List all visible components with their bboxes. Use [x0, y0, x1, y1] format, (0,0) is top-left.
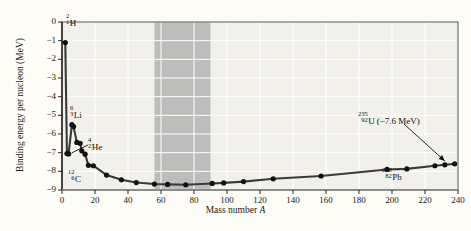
x-tick-label: 160	[311, 195, 341, 205]
annotation-h2: 21H	[66, 14, 76, 28]
x-tick-label: 220	[410, 195, 440, 205]
data-point	[183, 182, 188, 187]
data-point	[104, 172, 109, 177]
annotation-pb208-numbers: 20882	[382, 167, 392, 180]
annotation-c12-z: 6	[68, 175, 75, 182]
y-tick-label: −5	[20, 109, 56, 119]
data-point	[66, 151, 71, 156]
data-point	[152, 181, 157, 186]
annotation-u235-value: (−7.6 MeV)	[377, 116, 420, 126]
annotation-li6-numbers: 63	[70, 105, 73, 118]
y-tick-label: −2	[20, 53, 56, 63]
annotation-he4-z: 2	[88, 143, 91, 150]
data-point	[134, 180, 139, 185]
y-tick-label: −8	[20, 165, 56, 175]
annotation-u235: 23592U(−7.6 MeV)	[358, 112, 420, 126]
x-tick-label: 40	[113, 195, 143, 205]
x-tick-label: 0	[47, 195, 77, 205]
x-tick-label: 100	[212, 195, 242, 205]
annotation-pb208: 20882Pb	[382, 168, 402, 182]
stable-nuclei-band	[154, 22, 210, 190]
annotation-li6-element: Li	[74, 110, 82, 120]
annotation-li6-z: 3	[70, 111, 73, 118]
y-tick-label: −4	[20, 91, 56, 101]
y-tick-label: −9	[20, 184, 56, 194]
data-point	[119, 177, 124, 182]
y-tick-label: −1	[20, 35, 56, 45]
x-tick-label: 60	[146, 195, 176, 205]
annotation-he4-element: He	[92, 142, 103, 152]
data-point	[83, 152, 88, 157]
x-tick-label: 140	[278, 195, 308, 205]
data-point	[210, 181, 215, 186]
annotation-h2-numbers: 21	[66, 13, 69, 26]
annotation-li6: 63Li	[70, 106, 82, 120]
y-tick-label: −7	[20, 147, 56, 157]
data-point	[404, 166, 409, 171]
x-tick-label: 120	[245, 195, 275, 205]
x-tick-label: 240	[443, 195, 471, 205]
y-tick-label: −3	[20, 72, 56, 82]
data-point	[78, 141, 83, 146]
annotation-c12-element: C	[75, 174, 81, 184]
data-point	[63, 40, 68, 45]
binding-energy-chart: Binding energy per nucleon (MeV) Mass nu…	[0, 0, 471, 231]
data-point	[442, 162, 447, 167]
annotation-u235-z: 92	[358, 117, 368, 124]
annotation-c12: 126C	[68, 170, 81, 184]
annotation-pb208-z: 82	[382, 173, 392, 180]
y-tick-label: −6	[20, 128, 56, 138]
annotation-u235-element: U	[368, 116, 375, 126]
data-point	[318, 173, 323, 178]
data-point	[452, 161, 457, 166]
x-tick-label: 180	[344, 195, 374, 205]
annotation-u235-numbers: 23592	[358, 111, 368, 124]
annotation-he4-numbers: 42	[88, 137, 91, 150]
x-tick-label: 80	[179, 195, 209, 205]
data-point	[91, 163, 96, 168]
data-point	[432, 163, 437, 168]
data-point	[86, 163, 91, 168]
annotation-c12-numbers: 126	[68, 169, 75, 182]
annotation-h2-element: H	[70, 18, 77, 28]
data-point	[241, 179, 246, 184]
x-tick-label: 20	[80, 195, 110, 205]
annotation-pb208-element: Pb	[392, 172, 402, 182]
y-tick-label: 0	[20, 16, 56, 26]
annotation-he4: 42He	[88, 138, 102, 152]
data-point	[221, 180, 226, 185]
data-point	[165, 182, 170, 187]
x-tick-label: 200	[377, 195, 407, 205]
data-point	[271, 176, 276, 181]
annotation-h2-z: 1	[66, 19, 69, 26]
data-point	[71, 124, 76, 129]
